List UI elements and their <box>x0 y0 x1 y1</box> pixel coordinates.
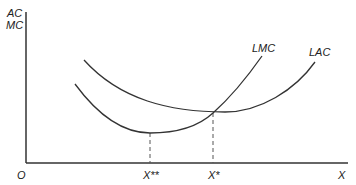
lac-curve <box>84 60 315 112</box>
y-axis-label-ac: AC <box>7 8 22 19</box>
origin-label: O <box>17 170 26 181</box>
lac-label: LAC <box>309 47 330 58</box>
lmc-label: LMC <box>252 43 275 54</box>
x-axis-label: X <box>338 170 345 181</box>
cost-curves-diagram <box>0 0 356 185</box>
lmc-curve <box>75 56 262 133</box>
y-axis-label-mc: MC <box>6 20 23 31</box>
x-double-star-label: X** <box>143 170 159 181</box>
x-star-label: X* <box>208 170 220 181</box>
